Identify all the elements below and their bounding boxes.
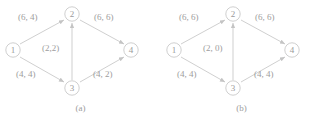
edge-label-2-4: (6, 6) <box>255 12 275 22</box>
node-label-2: 2 <box>225 6 241 22</box>
edge-label-3-4: (4, 4) <box>254 69 274 79</box>
edge-label-1-3: (4, 4) <box>177 69 197 79</box>
node-label-1: 1 <box>166 42 182 58</box>
edge-label-3-2: (2, 0) <box>203 43 223 53</box>
edge-1-2 <box>181 20 225 44</box>
node-label-4: 4 <box>284 42 300 58</box>
edge-2-4 <box>241 20 285 44</box>
panel-a: 1 2 3 4 (6, 4) (6, 6) (4, 4) (4, 2) (2,2… <box>0 0 161 123</box>
edge-label-2-4: (6, 6) <box>94 12 114 22</box>
panel-caption-b: (b) <box>161 103 322 113</box>
panel-caption-a: (a) <box>0 103 161 113</box>
figure-container: 1 2 3 4 (6, 4) (6, 6) (4, 4) (4, 2) (2,2… <box>0 0 322 123</box>
edge-2-4 <box>80 20 124 44</box>
edge-label-3-4: (4, 2) <box>93 69 113 79</box>
edge-label-3-2: (2,2) <box>42 43 59 53</box>
edge-label-1-3: (4, 4) <box>16 69 36 79</box>
edge-label-1-2: (6, 4) <box>18 12 38 22</box>
edge-label-1-2: (6, 6) <box>179 12 199 22</box>
node-label-4: 4 <box>123 42 139 58</box>
node-label-1: 1 <box>5 42 21 58</box>
node-label-3: 3 <box>64 80 80 96</box>
edge-1-2 <box>20 20 64 44</box>
node-label-3: 3 <box>225 80 241 96</box>
panel-b: 1 2 3 4 (6, 6) (6, 6) (4, 4) (4, 4) (2, … <box>161 0 322 123</box>
node-label-2: 2 <box>64 6 80 22</box>
